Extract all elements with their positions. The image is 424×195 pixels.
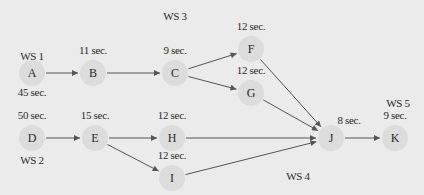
node-a: A — [19, 60, 45, 86]
node-d: D — [19, 125, 45, 151]
precedence-diagram: A45 sec.B11 sec.C9 sec.F12 sec.G12 sec.D… — [0, 0, 424, 195]
node-i: I — [159, 165, 185, 191]
edge-f-j — [260, 59, 321, 126]
workstation-label-2: WS 2 — [20, 154, 44, 166]
task-time-b: 11 sec. — [79, 44, 107, 56]
node-g: G — [238, 80, 264, 106]
node-j: J — [318, 125, 344, 151]
node-b: B — [80, 60, 106, 86]
edge-g-j — [263, 100, 318, 131]
task-time-i: 12 sec. — [158, 149, 186, 161]
task-time-c: 9 sec. — [163, 44, 186, 56]
task-time-f: 12 sec. — [237, 20, 265, 32]
node-c: C — [162, 60, 188, 86]
task-time-h: 12 sec. — [158, 109, 186, 121]
workstation-label-5: WS 5 — [386, 97, 410, 109]
node-f: F — [238, 36, 264, 62]
task-time-j: 8 sec. — [337, 114, 360, 126]
edges-layer — [0, 0, 424, 195]
edge-c-g — [189, 77, 237, 90]
node-h: H — [159, 125, 185, 151]
task-time-g: 12 sec. — [237, 64, 265, 76]
edge-e-i — [107, 144, 158, 171]
edge-c-f — [188, 54, 236, 69]
task-time-d: 50 sec. — [18, 109, 46, 121]
workstation-label-4: WS 4 — [286, 170, 310, 182]
workstation-label-1: WS 1 — [20, 50, 44, 62]
node-e: E — [82, 125, 108, 151]
task-time-a: 45 sec. — [18, 86, 46, 98]
task-time-e: 15 sec. — [81, 109, 109, 121]
task-time-k: 9 sec. — [383, 109, 406, 121]
node-k: K — [382, 125, 408, 151]
workstation-label-3: WS 3 — [163, 10, 187, 22]
